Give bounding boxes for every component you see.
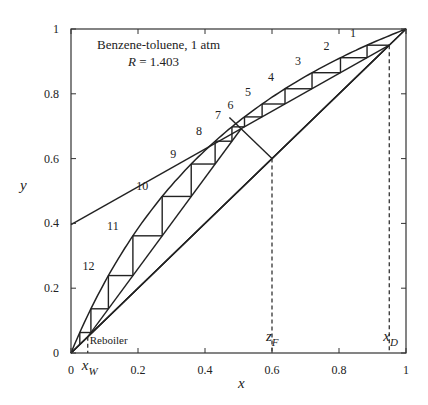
bottom-diagonal <box>71 45 389 353</box>
rectifying-operating-line <box>71 45 389 224</box>
reboiler-label: Reboiler <box>90 334 128 346</box>
z-f-label: zF <box>265 328 279 348</box>
x-d-label: xD <box>382 328 398 348</box>
y-tick-label: 0.8 <box>44 87 59 101</box>
y-tick-label: 0.2 <box>44 281 59 295</box>
plot-area: 123456789101112ReboilerzFxDxW <box>71 26 406 377</box>
stage-label: 1 <box>350 26 356 40</box>
x-axis-label: x <box>237 375 245 391</box>
stage-label: 6 <box>227 98 233 112</box>
axes: 00.20.40.60.8100.20.40.60.81 <box>44 22 409 377</box>
y-tick-label: 0.6 <box>44 152 59 166</box>
stage-label: 11 <box>107 219 119 233</box>
stage-label: 7 <box>215 108 221 122</box>
mccabe-thiele-chart: 123456789101112ReboilerzFxDxW 00.20.40.6… <box>0 0 428 405</box>
stage-label: 5 <box>245 85 251 99</box>
stage-label: 10 <box>136 179 148 193</box>
chart-title: Benzene-toluene, 1 atm <box>97 37 220 52</box>
stage-label: 8 <box>196 124 202 138</box>
y-axis-label: y <box>18 177 27 193</box>
stage-label: 9 <box>170 147 176 161</box>
y-tick-label: 0 <box>53 346 59 360</box>
stage-label: 12 <box>82 259 94 273</box>
x-tick-label: 0.6 <box>265 363 280 377</box>
x-tick-label: 0.4 <box>198 363 213 377</box>
y-tick-label: 1 <box>53 22 59 36</box>
x-tick-label: 0.2 <box>131 363 146 377</box>
x-tick-label: 1 <box>403 363 409 377</box>
reflux-ratio-label: R = 1.403 <box>127 54 179 69</box>
y-tick-label: 0.4 <box>44 216 59 230</box>
x-w-label: xW <box>81 357 99 377</box>
x-tick-label: 0 <box>68 363 74 377</box>
stage-label: 4 <box>268 70 274 84</box>
stage-label: 3 <box>295 54 301 68</box>
x-tick-label: 0.8 <box>332 363 347 377</box>
stage-label: 2 <box>323 39 329 53</box>
